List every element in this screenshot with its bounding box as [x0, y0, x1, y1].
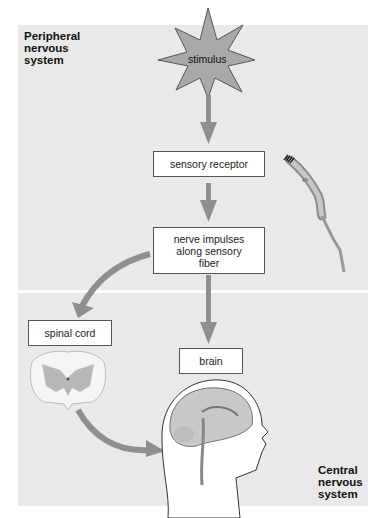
spinal-cord-cross-section-icon — [31, 351, 106, 410]
head-brain-icon — [162, 380, 268, 518]
arrow-down-icon — [200, 95, 217, 144]
sensory-receptor-box: sensory receptor — [153, 151, 265, 177]
curved-arrow-icon — [78, 410, 165, 457]
box-line: fiber — [199, 257, 219, 269]
sensory-neuron-icon — [284, 155, 344, 272]
curved-arrow-icon — [72, 254, 150, 318]
spinal-cord-box: spinal cord — [28, 320, 112, 346]
nerve-impulses-box: nerve impulses along sensory fiber — [153, 227, 265, 274]
stimulus-label: stimulus — [188, 53, 227, 65]
arrow-down-icon — [200, 275, 217, 344]
arrow-down-icon — [200, 183, 217, 222]
box-line: nerve impulses — [174, 233, 245, 245]
brain-box: brain — [179, 348, 243, 374]
box-line: along sensory — [176, 245, 241, 257]
